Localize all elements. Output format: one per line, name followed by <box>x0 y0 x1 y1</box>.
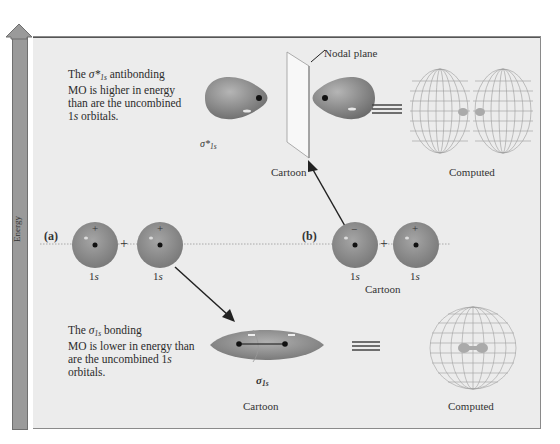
bonding-description: The σ1s bonding MO is lower in energy th… <box>68 324 195 379</box>
antibonding-lobe-right <box>313 77 376 119</box>
plus-sign: + <box>120 236 128 252</box>
bonding-cartoon <box>208 322 328 367</box>
antibonding-symbol: σ*1s <box>200 138 217 151</box>
orbital-label: 1s <box>89 270 99 282</box>
nodal-plane <box>287 52 309 158</box>
orbital-label: 1s <box>350 270 360 282</box>
bonding-cartoon-label: Cartoon <box>243 400 278 412</box>
bonding-symbol: σ1s <box>256 374 269 388</box>
part-a-orbitals <box>70 220 190 270</box>
equivalence-icon <box>352 341 382 351</box>
energy-arrow-up-icon <box>4 23 34 39</box>
arrow-to-bonding-icon <box>170 265 240 325</box>
part-b-label: (b) <box>302 229 317 244</box>
part-b-orbitals <box>330 220 460 270</box>
part-a-label: (a) <box>44 229 58 244</box>
orbital-sign: − <box>351 223 357 235</box>
nodal-plane-label: Nodal plane <box>324 47 377 59</box>
orbital-label: 1s <box>410 270 420 282</box>
orbital-sign: + <box>412 222 418 234</box>
energy-axis-label: Energy <box>12 212 26 246</box>
antibonding-computed-label: Computed <box>449 166 495 178</box>
antibonding-computed-mesh <box>410 66 535 156</box>
part-b-cartoon-label: Cartoon <box>365 283 400 295</box>
plus-sign: + <box>380 236 388 252</box>
bonding-computed-label: Computed <box>448 400 494 412</box>
orbital-sign: + <box>92 222 98 234</box>
bonding-computed-mesh <box>428 305 518 391</box>
equivalence-icon <box>372 104 402 114</box>
orbital-label: 1s <box>153 270 163 282</box>
antibonding-description: The σ*1s antibonding MO is higher in ene… <box>68 68 181 123</box>
bonding-lobe <box>210 330 324 360</box>
orbital-sign: + <box>157 222 163 234</box>
